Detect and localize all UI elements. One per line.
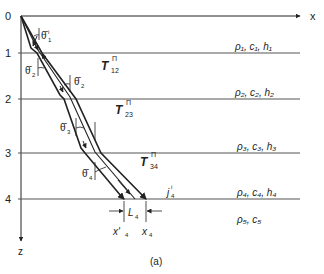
- svg-text:4: 4: [125, 232, 129, 238]
- x-prime-4-label: x' 4: [112, 226, 129, 238]
- depth-tick-2: 2: [5, 93, 11, 105]
- svg-text:4: 4: [171, 193, 175, 199]
- z-axis-label: z: [18, 246, 23, 257]
- svg-text:i: i: [48, 29, 49, 35]
- svg-text:1: 1: [48, 37, 52, 43]
- svg-text:4: 4: [89, 175, 93, 181]
- svg-text:j: j: [165, 187, 170, 198]
- angle-label-theta1-i: θ̄ 1 i: [41, 29, 52, 43]
- svg-text:4: 4: [149, 232, 153, 238]
- layer-2-label: ρ₂, c₂, h₂: [234, 87, 274, 98]
- svg-text:L: L: [128, 207, 134, 218]
- angle-label-theta2-left: θ̄ 2: [25, 65, 36, 78]
- svg-text:2: 2: [81, 83, 85, 89]
- depth-tick-4: 4: [5, 193, 11, 205]
- svg-text:Π: Π: [126, 99, 131, 106]
- layer-4-label: ρ₄, c₄, h₄: [236, 187, 276, 198]
- x-4-label: x 4: [141, 226, 153, 238]
- figure-caption: (a): [150, 256, 162, 267]
- svg-text:x: x: [141, 226, 148, 237]
- svg-text:i: i: [171, 184, 172, 190]
- L4-dimension: L 4: [109, 201, 162, 222]
- svg-text:T: T: [115, 103, 124, 117]
- depth-tick-1: 1: [5, 47, 11, 59]
- stratified-medium-ray-diagram: x z 0 1 2 3 4 ρ₁, c₁, h₁ ρ₂, c₂, h₂ ρ₃, …: [0, 0, 324, 274]
- svg-text:23: 23: [125, 111, 133, 118]
- angle-label-theta3: θ̄ 3: [60, 122, 71, 135]
- transmission-label-12: T Π 12: [101, 55, 119, 74]
- transmission-label-23: T Π 23: [115, 99, 133, 118]
- x-axis-label: x: [310, 10, 316, 22]
- svg-text:12: 12: [111, 67, 119, 74]
- svg-text:Π: Π: [112, 55, 117, 62]
- svg-text:4: 4: [135, 214, 139, 220]
- layer-5-label: ρ₅, c₅: [236, 214, 261, 225]
- svg-text:T: T: [101, 59, 110, 73]
- transmission-label-34: T Π 34: [140, 151, 158, 170]
- depth-tick-0: 0: [5, 10, 11, 22]
- j4-label: j 4 i: [165, 184, 175, 199]
- svg-text:x': x': [112, 226, 121, 237]
- angle-label-theta4: θ̄ 4: [82, 168, 93, 181]
- svg-text:Π: Π: [151, 151, 156, 158]
- svg-text:3: 3: [67, 129, 71, 135]
- arrow-icon: [118, 180, 130, 194]
- svg-text:T: T: [140, 155, 149, 169]
- angle-label-theta2-right: θ̄ 2: [74, 76, 85, 89]
- svg-text:34: 34: [150, 163, 158, 170]
- svg-text:2: 2: [32, 72, 36, 78]
- depth-tick-3: 3: [5, 147, 11, 159]
- layer-3-label: ρ₃, c₃, h₃: [236, 141, 276, 152]
- arrow-icon: [83, 141, 86, 148]
- layer-1-label: ρ₁, c₁, h₁: [234, 41, 272, 52]
